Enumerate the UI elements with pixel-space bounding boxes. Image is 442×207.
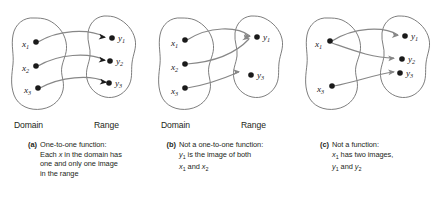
- point-x3: [329, 83, 335, 89]
- panel-a-caption-body: One-to-one function: Each x in the domai…: [40, 140, 148, 178]
- caption-line-2: Each x in the domain has: [40, 150, 148, 160]
- panel-a-set-labels: Domain Range: [0, 120, 148, 134]
- panel-a-caption: (a) One-to-one function: Each x in the d…: [22, 140, 148, 178]
- point-y3: [397, 70, 403, 76]
- point-x3: [35, 85, 41, 91]
- label-x1-sub: 1: [26, 43, 29, 50]
- panel-b-set-labels: Domain Range: [147, 120, 295, 134]
- label-x2-sub: 2: [26, 67, 29, 74]
- label-x2: x2: [21, 63, 29, 74]
- range-label: Range: [241, 120, 266, 130]
- point-y2: [107, 58, 113, 64]
- label-y1: y1: [410, 31, 418, 42]
- label-x3-sub: 3: [174, 90, 178, 97]
- point-x2: [182, 61, 188, 67]
- label-y3: y3: [114, 78, 122, 89]
- panel-c-tag: (c): [314, 140, 332, 150]
- arrow-x1-y2: [332, 43, 394, 58]
- label-x2-sub: 2: [175, 66, 178, 73]
- panel-c: x1 x3 y1 y2 y3 (c) Not a function: x1 ha…: [294, 0, 442, 207]
- label-y2: y2: [407, 54, 415, 65]
- caption-line-3: one and only one image: [40, 159, 148, 169]
- domain-label: Domain: [14, 120, 43, 130]
- point-x1: [33, 39, 39, 45]
- panel-a-diagram: x1 x2 x3 y1 y2 y3: [0, 0, 148, 120]
- panel-a-tag: (a): [22, 140, 40, 150]
- panel-b-diagram: x1 x2 x3 y1 y3: [147, 0, 295, 120]
- caption-line-1: One-to-one function:: [40, 140, 148, 150]
- range-blob: [380, 16, 429, 98]
- label-y1-sub: 1: [415, 35, 418, 42]
- label-x1: x1: [170, 38, 178, 49]
- label-x1: x1: [314, 39, 322, 50]
- point-y1: [402, 33, 408, 39]
- panel-a: x1 x2 x3 y1 y2 y3 Domain Range (a) One-t…: [0, 0, 148, 207]
- caption-line-4: in the range: [40, 169, 148, 179]
- panel-b: x1 x2 x3 y1 y3 Domain Range (b) Not a on…: [147, 0, 295, 207]
- point-x2: [33, 63, 39, 69]
- label-x1: x1: [21, 39, 29, 50]
- label-y1: y1: [262, 32, 270, 43]
- arrow-x3-y3: [334, 72, 394, 86]
- arrow-x2-y1: [187, 39, 249, 64]
- range-blob: [233, 16, 282, 98]
- caption-line-3: y1 and y2: [332, 162, 442, 174]
- point-y2: [399, 56, 405, 62]
- panel-b-caption-body: Not a one-to-one function: y1 is the ima…: [179, 140, 295, 174]
- point-y3: [248, 72, 254, 78]
- label-y1-sub: 1: [267, 36, 270, 43]
- label-y3-sub: 3: [118, 82, 122, 89]
- caption-line-1: Not a one-to-one function:: [179, 140, 295, 150]
- label-y3-sub: 3: [409, 72, 413, 79]
- label-y3: y3: [256, 70, 264, 81]
- label-x3-sub: 3: [320, 88, 324, 95]
- caption-line-2: x1 has two images,: [332, 150, 442, 162]
- label-x3: x3: [170, 86, 178, 97]
- label-y2: y2: [115, 56, 123, 67]
- label-y3: y3: [405, 68, 413, 79]
- point-x1: [327, 38, 333, 44]
- arrow-x1-y1: [38, 31, 105, 42]
- arrow-x3-y3: [187, 72, 239, 88]
- label-y2-sub: 2: [412, 58, 415, 65]
- panel-c-caption: (c) Not a function: x1 has two images, y…: [314, 140, 442, 174]
- label-x2: x2: [170, 62, 178, 73]
- label-x1-sub: 1: [319, 43, 322, 50]
- point-x3: [182, 85, 188, 91]
- arrow-x3-y3: [40, 77, 106, 88]
- label-x1-sub: 1: [175, 42, 178, 49]
- caption-line-3: x1 and x2: [179, 162, 295, 174]
- arrow-x1-y1: [187, 29, 250, 40]
- label-y2-sub: 2: [120, 60, 123, 67]
- point-y1: [254, 34, 260, 40]
- point-y1: [109, 35, 115, 41]
- arrow-x1-y1: [332, 29, 398, 41]
- panel-b-caption: (b) Not a one-to-one function: y1 is the…: [161, 140, 295, 174]
- domain-label: Domain: [161, 120, 190, 130]
- label-x3: x3: [316, 84, 324, 95]
- label-y1: y1: [117, 33, 125, 44]
- range-label: Range: [94, 120, 119, 130]
- panel-b-tag: (b): [161, 140, 179, 150]
- point-y3: [106, 80, 112, 86]
- domain-blob: [12, 18, 67, 110]
- label-y1-sub: 1: [122, 37, 125, 44]
- function-diagram-figure: x1 x2 x3 y1 y2 y3 Domain Range (a) One-t…: [0, 0, 442, 207]
- point-x1: [182, 37, 188, 43]
- arrow-x2-y2: [38, 55, 105, 66]
- caption-line-1: Not a function:: [332, 140, 442, 150]
- label-y3-sub: 3: [260, 74, 264, 81]
- label-x3-sub: 3: [27, 89, 31, 96]
- panel-c-caption-body: Not a function: x1 has two images, y1 an…: [332, 140, 442, 174]
- panel-c-diagram: x1 x3 y1 y2 y3: [294, 0, 442, 120]
- caption-line-2: y1 is the image of both: [179, 150, 295, 162]
- label-x3: x3: [23, 85, 31, 96]
